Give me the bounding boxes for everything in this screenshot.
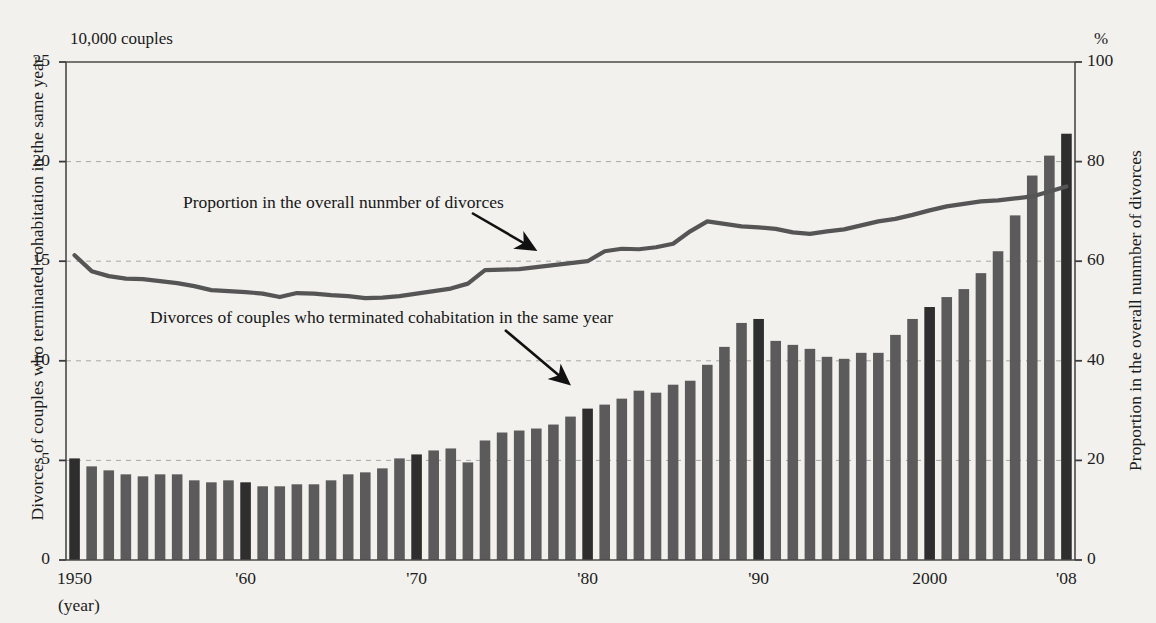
y-tick-label-left: 25 — [10, 50, 50, 71]
plot-area — [0, 0, 1156, 623]
y-tick-label-right: 80 — [1087, 150, 1131, 171]
arrow-to-bar-series — [505, 330, 568, 383]
y-tick-label-left: 0 — [10, 548, 50, 569]
annotation-arrows — [472, 213, 568, 383]
line-series — [75, 187, 1067, 299]
y-tick-label-right: 20 — [1087, 448, 1131, 469]
y-tick-label-left: 15 — [10, 249, 50, 270]
x-tick-label: 2000 — [895, 568, 965, 589]
divorce-statistics-chart: 10,000 couples % Divorces of couples who… — [0, 0, 1156, 623]
arrow-to-line-series — [472, 213, 534, 249]
y-tick-label-left: 20 — [10, 150, 50, 171]
y-tick-label-right: 40 — [1087, 349, 1131, 370]
y-tick-label-left: 10 — [10, 349, 50, 370]
y-tick-label-right: 100 — [1087, 50, 1131, 71]
gridlines — [66, 162, 1075, 461]
x-tick-label: '60 — [211, 568, 281, 589]
x-tick-label: '70 — [382, 568, 452, 589]
x-tick-label: '80 — [553, 568, 623, 589]
x-tick-label: '08 — [1031, 568, 1101, 589]
bar-series — [69, 134, 1072, 560]
y-tick-label-right: 60 — [1087, 249, 1131, 270]
y-tick-label-right: 0 — [1087, 548, 1131, 569]
x-tick-label: '90 — [724, 568, 794, 589]
y-tick-label-left: 5 — [10, 448, 50, 469]
x-tick-label: 1950 — [40, 568, 110, 589]
